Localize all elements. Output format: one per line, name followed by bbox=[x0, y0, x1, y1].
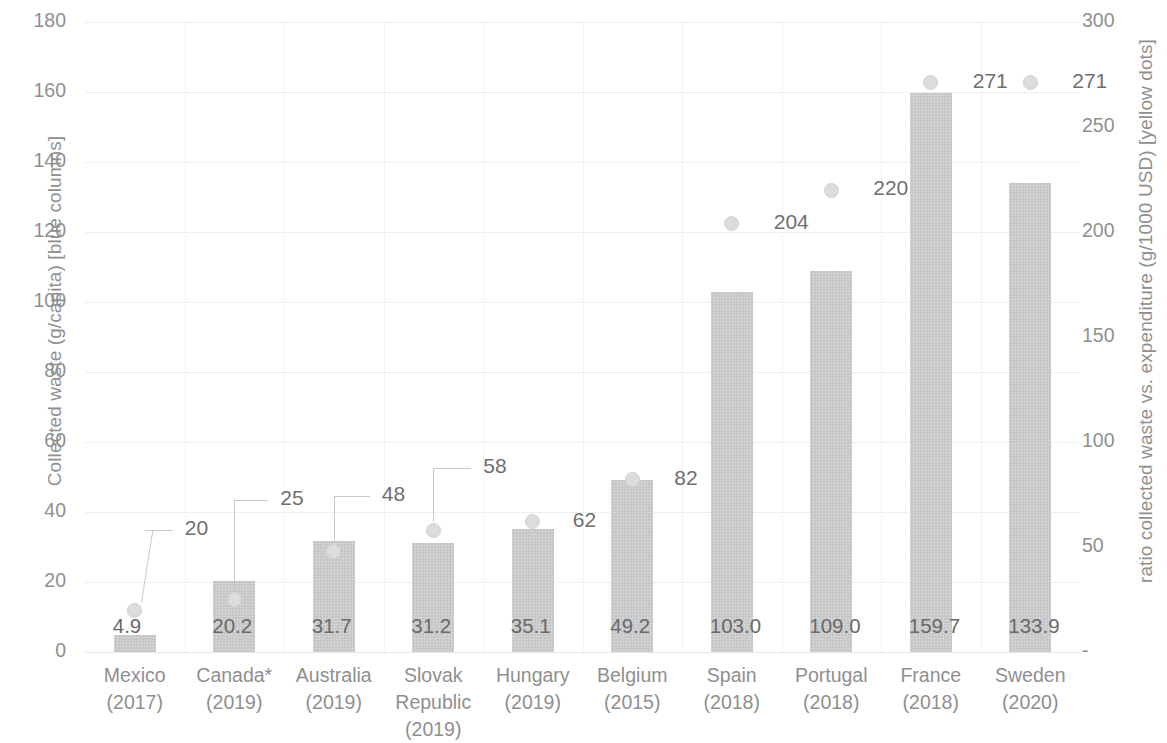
dot-value-label: 220 bbox=[873, 176, 908, 200]
y-axis-right-tick: 200 bbox=[1082, 219, 1115, 242]
x-axis-category-label: Mexico (2017) bbox=[85, 662, 185, 716]
x-axis-category-label: Portugal (2018) bbox=[782, 662, 882, 716]
y-axis-right-tick: - bbox=[1082, 639, 1089, 662]
gridline bbox=[85, 652, 1080, 653]
dot-value-label: 271 bbox=[1072, 69, 1107, 93]
leader-line bbox=[141, 531, 153, 602]
bar[interactable] bbox=[810, 271, 852, 653]
data-point-dot[interactable] bbox=[824, 183, 839, 198]
x-axis-category-label: Sweden (2020) bbox=[981, 662, 1081, 716]
dot-value-label: 62 bbox=[573, 508, 596, 532]
data-point-dot[interactable] bbox=[625, 472, 640, 487]
category-separator bbox=[583, 22, 584, 652]
x-axis-category-label: France (2018) bbox=[881, 662, 981, 716]
leader-line bbox=[234, 500, 235, 592]
x-axis-category-label: Canada* (2019) bbox=[185, 662, 285, 716]
bar[interactable] bbox=[711, 292, 753, 653]
dot-value-label: 271 bbox=[973, 69, 1008, 93]
bar-value-label: 31.7 bbox=[312, 614, 352, 638]
bar[interactable] bbox=[1009, 183, 1051, 652]
category-separator bbox=[981, 22, 982, 652]
y-axis-left-tick: 120 bbox=[33, 219, 66, 242]
x-axis-category-label: Spain (2018) bbox=[682, 662, 782, 716]
y-axis-right-tick: 50 bbox=[1082, 534, 1104, 557]
y-axis-right-title: ratio collected waste vs. expenditure (g… bbox=[1135, 31, 1157, 591]
category-separator bbox=[881, 22, 882, 652]
data-point-dot[interactable] bbox=[227, 592, 242, 607]
bar-value-label: 20.2 bbox=[212, 614, 252, 638]
category-separator bbox=[384, 22, 385, 652]
category-separator bbox=[284, 22, 285, 652]
y-axis-right-tick: 300 bbox=[1082, 9, 1115, 32]
data-point-dot[interactable] bbox=[724, 216, 739, 231]
y-axis-left-tick: 40 bbox=[44, 499, 66, 522]
bar[interactable] bbox=[910, 93, 952, 652]
leader-line-elbow bbox=[433, 468, 471, 469]
y-axis-left-tick: 100 bbox=[33, 289, 66, 312]
category-separator bbox=[185, 22, 186, 652]
data-point-dot[interactable] bbox=[1023, 75, 1038, 90]
dot-value-label: 204 bbox=[774, 210, 809, 234]
data-point-dot[interactable] bbox=[326, 544, 341, 559]
y-axis-left-tick: 180 bbox=[33, 9, 66, 32]
category-separator bbox=[782, 22, 783, 652]
plot-area: 4.920.231.731.235.149.2103.0109.0159.713… bbox=[85, 22, 1080, 652]
data-point-dot[interactable] bbox=[923, 75, 938, 90]
y-axis-left-tick: 0 bbox=[55, 639, 66, 662]
bar-value-label: 133.9 bbox=[1008, 614, 1059, 638]
y-axis-left-tick: 20 bbox=[44, 569, 66, 592]
y-axis-right-tick: 250 bbox=[1082, 114, 1115, 137]
y-axis-left-tick: 60 bbox=[44, 429, 66, 452]
x-axis-category-label: Australia (2019) bbox=[284, 662, 384, 716]
bar-value-label: 159.7 bbox=[909, 614, 960, 638]
category-separator bbox=[682, 22, 683, 652]
bar-value-label: 4.9 bbox=[113, 614, 142, 638]
y-axis-left-tick: 140 bbox=[33, 149, 66, 172]
bar-value-label: 103.0 bbox=[710, 614, 761, 638]
leader-line-elbow bbox=[234, 500, 268, 501]
y-axis-right-tick: 150 bbox=[1082, 324, 1115, 347]
y-axis-left-tick: 160 bbox=[33, 79, 66, 102]
bar-value-label: 35.1 bbox=[511, 614, 551, 638]
leader-line-elbow bbox=[334, 496, 370, 497]
dot-value-label: 48 bbox=[382, 482, 405, 506]
dot-value-label: 58 bbox=[483, 454, 506, 478]
bar-value-label: 109.0 bbox=[809, 614, 860, 638]
bar-value-label: 31.2 bbox=[411, 614, 451, 638]
dot-value-label: 25 bbox=[280, 486, 303, 510]
y-axis-left-tick: 80 bbox=[44, 359, 66, 382]
dot-value-label: 20 bbox=[185, 516, 208, 540]
x-axis-category-label: Belgium (2015) bbox=[583, 662, 683, 716]
x-axis-category-label: Slovak Republic (2019) bbox=[384, 662, 484, 743]
data-point-dot[interactable] bbox=[525, 514, 540, 529]
leader-line-elbow bbox=[145, 530, 173, 531]
leader-line bbox=[433, 468, 434, 522]
leader-line bbox=[334, 496, 335, 543]
x-axis-category-label: Hungary (2019) bbox=[483, 662, 583, 716]
bar-value-label: 49.2 bbox=[610, 614, 650, 638]
dot-value-label: 82 bbox=[674, 466, 697, 490]
y-axis-right-tick: 100 bbox=[1082, 429, 1115, 452]
category-separator bbox=[483, 22, 484, 652]
data-point-dot[interactable] bbox=[426, 523, 441, 538]
